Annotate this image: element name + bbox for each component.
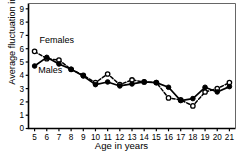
data-point: [203, 90, 207, 94]
data-point: [32, 49, 36, 53]
series-females: [32, 49, 231, 108]
series-label-males: Males: [38, 65, 63, 75]
y-tick-label: 0: [19, 124, 24, 133]
y-tick-label: 7: [19, 31, 24, 40]
data-point: [227, 84, 232, 89]
y-axis-title: Average fluctuation indices: [7, 0, 17, 90]
data-point: [105, 80, 110, 85]
line-chart: 012345678956789101112131415161718192021F…: [0, 0, 243, 157]
data-point: [105, 72, 109, 76]
data-point: [166, 96, 170, 100]
data-point: [81, 74, 86, 79]
data-point: [32, 64, 37, 69]
x-axis-title: Age in years: [0, 140, 243, 151]
y-axis-ticks: 0123456789: [19, 5, 28, 134]
data-point: [154, 80, 159, 85]
y-tick-label: 6: [19, 45, 24, 54]
y-tick-label: 4: [19, 71, 24, 80]
y-tick-label: 5: [19, 58, 24, 67]
data-point: [191, 104, 195, 108]
data-point: [166, 85, 171, 90]
data-point: [215, 90, 220, 95]
data-point: [178, 98, 183, 103]
y-tick-label: 1: [19, 111, 24, 120]
data-point: [44, 55, 49, 60]
series-label-females: Females: [39, 35, 74, 45]
y-tick-label: 3: [19, 85, 24, 94]
data-point: [142, 80, 147, 85]
chart-figure: 012345678956789101112131415161718192021F…: [0, 0, 243, 157]
data-point: [93, 82, 98, 87]
data-point: [203, 85, 208, 90]
data-point: [69, 67, 74, 72]
y-tick-label: 9: [19, 5, 24, 14]
data-point: [118, 84, 123, 89]
y-tick-label: 8: [19, 18, 24, 27]
y-tick-label: 2: [19, 98, 24, 107]
data-point: [191, 96, 196, 101]
data-point: [130, 82, 135, 87]
